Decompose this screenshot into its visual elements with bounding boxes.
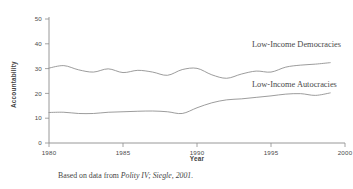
figure-caption: Based on data from Polity IV; Siegle, 20… <box>58 171 193 180</box>
x-tick-label: 1985 <box>116 149 131 156</box>
y-tick-label: 50 <box>35 15 43 22</box>
series-line-autocracies <box>49 93 330 114</box>
y-tick-label: 40 <box>35 40 43 47</box>
y-tick-label: 20 <box>35 90 43 97</box>
y-tick-label: 0 <box>38 139 42 146</box>
caption-prefix: Based on data from <box>58 171 121 180</box>
series-label-democracies: Low-Income Democracies <box>252 40 341 49</box>
x-tick-label: 2000 <box>338 149 353 156</box>
series-line-democracies <box>49 63 330 79</box>
y-axis-ticks: 01020304050 <box>35 15 49 146</box>
series-label-autocracies: Low-Income Autocracies <box>252 80 337 89</box>
x-tick-label: 1995 <box>264 149 279 156</box>
y-tick-label: 10 <box>35 114 43 121</box>
chart-figure: 01020304050 19801985199019952000 Account… <box>0 0 353 189</box>
x-axis-ticks: 19801985199019952000 <box>42 143 353 156</box>
y-tick-label: 30 <box>35 65 43 72</box>
accountability-line-chart: 01020304050 19801985199019952000 Account… <box>0 0 353 189</box>
y-axis-title: Accountability <box>10 61 18 108</box>
x-axis-title: Year <box>190 155 205 162</box>
x-tick-label: 1980 <box>42 149 57 156</box>
caption-source: Polity IV; Siegle, 2001. <box>121 171 193 180</box>
